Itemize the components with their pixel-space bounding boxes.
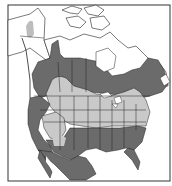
north-america-map: [0, 0, 172, 186]
range-map: [0, 0, 172, 186]
